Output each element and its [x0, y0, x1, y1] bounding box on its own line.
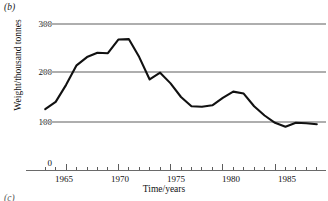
gridlines-group — [40, 24, 326, 122]
data-series-line — [45, 39, 317, 127]
x-axis-ticks — [45, 164, 317, 170]
figure-container: (b) (c) Weight/thousand tonnes Time/year… — [0, 0, 328, 201]
plot-area — [0, 0, 328, 201]
